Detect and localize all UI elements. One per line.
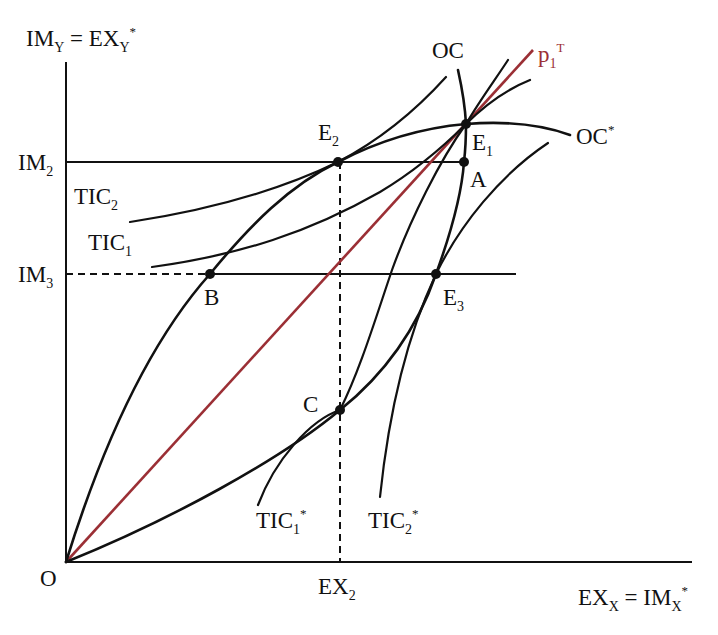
y-axis-label: IMY = EXY*: [26, 24, 136, 55]
x-axis-label: EXX = IMX*: [578, 583, 688, 614]
point-e2: [333, 157, 343, 167]
offer-curve-diagram: IMY = EXY* EXX = IMX* O IM2 IM3 EX2 OC O…: [0, 0, 718, 635]
point-e1: [461, 119, 471, 129]
trade-indifference-curve-tic1-star: [258, 60, 508, 505]
tic2-star-label: TIC2*: [368, 506, 419, 537]
point-a: [459, 157, 469, 167]
ex2-label: EX2: [318, 574, 356, 603]
diagram-canvas: IMY = EXY* EXX = IMX* O IM2 IM3 EX2 OC O…: [0, 0, 718, 635]
point-e3: [431, 269, 441, 279]
trade-indifference-curve-tic2: [130, 77, 446, 222]
a-label: A: [470, 167, 487, 192]
point-b: [205, 269, 215, 279]
tic1-star-label: TIC1*: [256, 506, 307, 537]
tic1-label: TIC1: [88, 230, 132, 259]
terms-of-trade-label: p1T: [538, 40, 565, 71]
e2-label: E2: [318, 120, 339, 149]
trade-indifference-curve-tic2-star: [380, 143, 548, 497]
e3-label: E3: [443, 285, 464, 314]
oc-label: OC: [432, 38, 464, 63]
origin-label: O: [40, 566, 57, 591]
im3-label: IM3: [18, 262, 53, 291]
b-label: B: [204, 285, 219, 310]
tic2-label: TIC2: [74, 184, 118, 213]
e1-label: E1: [472, 130, 493, 159]
im2-label: IM2: [18, 150, 53, 179]
point-c: [335, 405, 345, 415]
c-label: C: [303, 392, 318, 417]
oc-star-label: OC*: [576, 122, 614, 149]
